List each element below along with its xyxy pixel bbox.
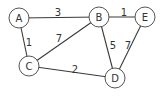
edge-weight-label: 7 (125, 40, 131, 51)
nodes-group: ABECD (9, 7, 155, 88)
edge-weight-label: 3 (55, 7, 61, 18)
node-e: E (135, 7, 155, 27)
node-d: D (105, 68, 125, 88)
edge-weight-label: 1 (121, 7, 127, 18)
edge-weight-label: 7 (56, 33, 62, 44)
node-c: C (19, 56, 39, 76)
node-label: D (111, 73, 119, 84)
node-label: A (16, 13, 23, 24)
node-b: B (89, 7, 109, 27)
edge-weight-label: 5 (110, 40, 116, 51)
edge-b-c (29, 17, 99, 66)
node-label: E (142, 12, 148, 23)
node-a: A (9, 8, 29, 28)
edge-weight-label: 1 (26, 37, 32, 48)
node-label: C (26, 61, 33, 72)
edge-weight-label: 2 (72, 64, 78, 75)
node-label: B (96, 12, 103, 23)
weighted-graph-diagram: 3171572 ABECD (0, 0, 166, 97)
